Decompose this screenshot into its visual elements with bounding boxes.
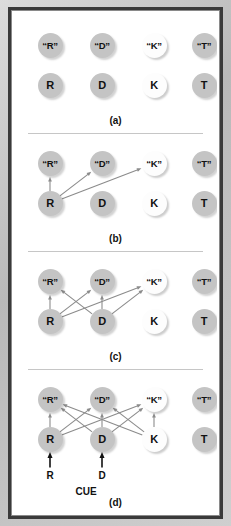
node-2-plain-2: K	[142, 309, 167, 334]
node-label: R	[46, 198, 54, 209]
node-label: “D”	[94, 41, 109, 51]
node-1-quoted-1: “D”	[90, 151, 115, 176]
node-2-plain-3: T	[192, 309, 217, 334]
arrow-c-0	[48, 295, 52, 309]
node-label: “D”	[94, 159, 109, 169]
node-label: D	[98, 316, 106, 327]
arrow-c-5	[112, 290, 143, 314]
panel-d: “R”“D”“K”“T”RDKTRDCUE(d)	[14, 379, 217, 513]
node-1-plain-1: D	[90, 191, 115, 216]
node-0-quoted-0: “R”	[38, 33, 63, 58]
node-label: “D”	[94, 395, 109, 405]
node-0-quoted-1: “D”	[90, 33, 115, 58]
panel-c: “R”“D”“K”“T”RDKT(c)	[14, 261, 217, 373]
node-2-quoted-0: “R”	[38, 269, 63, 294]
node-label: R	[46, 316, 54, 327]
node-1-plain-0: R	[38, 191, 63, 216]
node-3-quoted-1: “D”	[90, 387, 115, 412]
node-label: T	[201, 80, 207, 91]
figure-frame: “R”“D”“K”“T”RDKT(a)“R”“D”“K”“T”RDKT(b)“R…	[8, 7, 223, 519]
node-label: D	[98, 80, 106, 91]
node-label: “K”	[146, 41, 161, 51]
node-label: “T”	[197, 159, 211, 169]
node-2-plain-1: D	[90, 309, 115, 334]
node-label: K	[150, 316, 158, 327]
node-label: “D”	[94, 277, 109, 287]
node-label: T	[201, 198, 207, 209]
node-0-quoted-2: “K”	[142, 33, 167, 58]
node-label: “R”	[42, 159, 57, 169]
node-0-plain-0: R	[38, 73, 63, 98]
node-3-plain-2: K	[142, 427, 167, 452]
figure-stage: “R”“D”“K”“T”RDKT(a)“R”“D”“K”“T”RDKT(b)“R…	[14, 13, 217, 513]
node-2-plain-0: R	[38, 309, 63, 334]
panel-b: “R”“D”“K”“T”RDKT(b)	[14, 143, 217, 255]
node-1-plain-3: T	[192, 191, 217, 216]
node-0-plain-1: D	[90, 73, 115, 98]
node-label: D	[98, 434, 106, 445]
node-3-quoted-2: “K”	[142, 387, 167, 412]
node-2-quoted-2: “K”	[142, 269, 167, 294]
cue-arrow-d-1	[99, 452, 104, 468]
node-0-plain-2: K	[142, 73, 167, 98]
node-2-quoted-3: “T”	[192, 269, 217, 294]
node-label: K	[150, 198, 158, 209]
node-2-quoted-1: “D”	[90, 269, 115, 294]
arrow-b-0	[48, 177, 52, 191]
node-1-quoted-2: “K”	[142, 151, 167, 176]
node-label: R	[46, 80, 54, 91]
figure-background: “R”“D”“K”“T”RDKT(a)“R”“D”“K”“T”RDKT(b)“R…	[0, 0, 231, 526]
node-label: R	[46, 434, 54, 445]
node-0-quoted-3: “T”	[192, 33, 217, 58]
node-label: T	[201, 316, 207, 327]
node-1-quoted-3: “T”	[192, 151, 217, 176]
node-label: D	[98, 198, 106, 209]
node-3-plain-0: R	[38, 427, 63, 452]
arrow-b-1	[60, 172, 91, 196]
node-0-plain-3: T	[192, 73, 217, 98]
node-label: “R”	[42, 277, 57, 287]
node-1-plain-2: K	[142, 191, 167, 216]
node-label: T	[201, 434, 207, 445]
cue-arrow-d-0	[47, 452, 52, 468]
node-label: K	[150, 80, 158, 91]
node-label: “K”	[146, 395, 161, 405]
node-1-quoted-0: “R”	[38, 151, 63, 176]
node-3-quoted-3: “T”	[192, 387, 217, 412]
node-label: “K”	[146, 159, 161, 169]
node-label: “K”	[146, 277, 161, 287]
node-label: “T”	[197, 41, 211, 51]
node-3-quoted-0: “R”	[38, 387, 63, 412]
node-3-plain-1: D	[90, 427, 115, 452]
node-label: “R”	[42, 395, 57, 405]
node-label: “T”	[197, 277, 211, 287]
node-label: K	[150, 434, 158, 445]
node-label: “R”	[42, 41, 57, 51]
panel-a: “R”“D”“K”“T”RDKT(a)	[14, 25, 217, 137]
node-label: “T”	[197, 395, 211, 405]
node-3-plain-3: T	[192, 427, 217, 452]
